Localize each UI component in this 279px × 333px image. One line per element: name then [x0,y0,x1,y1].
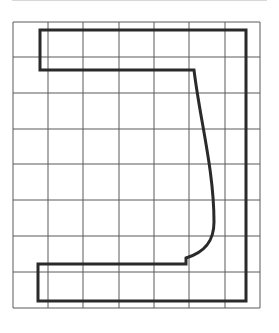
grid-diagram [0,0,279,333]
shape-outline [38,30,246,301]
